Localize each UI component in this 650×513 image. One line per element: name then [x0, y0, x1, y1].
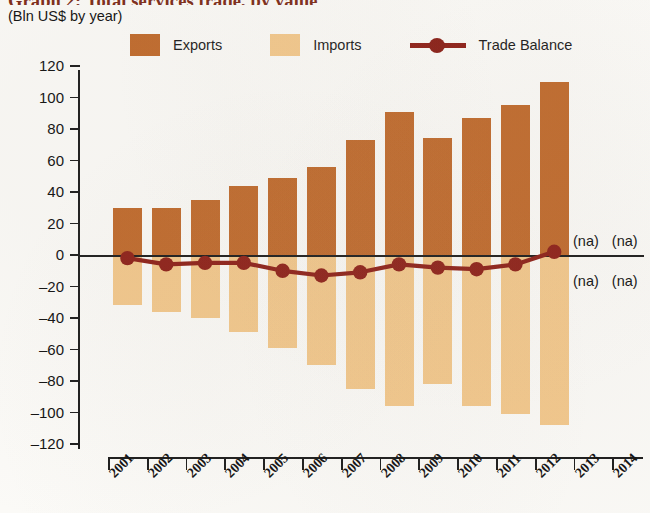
x-axis-label: 2004 [222, 450, 253, 481]
x-axis-label: 2013 [572, 450, 603, 481]
x-axis-label: 2005 [261, 450, 292, 481]
bar-imports-2001 [113, 255, 142, 305]
x-axis-label: 2009 [416, 450, 447, 481]
y-axis-label: 100 [18, 90, 64, 105]
bar-imports-2010 [462, 255, 491, 406]
x-axis-label: 2002 [145, 450, 176, 481]
y-tick [70, 349, 80, 351]
bar-exports-2012 [540, 82, 569, 255]
bar-imports-2002 [152, 255, 181, 312]
bar-imports-2005 [268, 255, 297, 348]
x-axis-label: 2014 [610, 450, 641, 481]
y-tick [70, 223, 80, 225]
bar-exports-2005 [268, 178, 297, 255]
bar-imports-2004 [229, 255, 258, 332]
bar-exports-2004 [229, 186, 258, 255]
y-tick [70, 160, 80, 162]
y-axis-label: –80 [18, 373, 64, 388]
x-axis-label: 2008 [378, 450, 409, 481]
x-axis-label: 2007 [339, 450, 370, 481]
x-axis-label: 2001 [106, 450, 137, 481]
y-tick [70, 380, 80, 382]
na-label-bottom-2013: (na) [573, 273, 599, 289]
y-axis-label: 0 [18, 247, 64, 262]
x-axis-label: 2012 [533, 450, 564, 481]
na-label-top-2013: (na) [573, 233, 599, 249]
y-tick [70, 286, 80, 288]
y-axis-label: –120 [18, 436, 64, 451]
bar-exports-2009 [423, 138, 452, 255]
bar-imports-2007 [346, 255, 375, 389]
bar-imports-2012 [540, 255, 569, 425]
bar-imports-2011 [501, 255, 530, 414]
y-axis-label: 80 [18, 121, 64, 136]
y-axis-label: –40 [18, 310, 64, 325]
bar-imports-2009 [423, 255, 452, 384]
y-tick [70, 443, 80, 445]
na-label-bottom-2014: (na) [612, 273, 638, 289]
y-tick [70, 65, 80, 67]
y-axis-label: –20 [18, 279, 64, 294]
y-tick [70, 412, 80, 414]
chart-plot-area: 120100806040200–20–40–60–80–100–120 2001… [0, 0, 650, 513]
bar-exports-2001 [113, 208, 142, 255]
bar-exports-2002 [152, 208, 181, 255]
bar-exports-2007 [346, 140, 375, 255]
bar-exports-2006 [307, 167, 336, 255]
y-axis-label: 20 [18, 216, 64, 231]
bar-exports-2008 [385, 112, 414, 255]
y-axis-label: –100 [18, 405, 64, 420]
na-label-top-2014: (na) [612, 233, 638, 249]
y-axis-label: –60 [18, 342, 64, 357]
y-axis-label: 60 [18, 153, 64, 168]
bar-imports-2006 [307, 255, 336, 365]
x-axis-label: 2010 [455, 450, 486, 481]
y-tick [70, 128, 80, 130]
y-tick [70, 317, 80, 319]
y-axis-label: 40 [18, 184, 64, 199]
bar-imports-2008 [385, 255, 414, 406]
y-tick [70, 191, 80, 193]
zero-baseline [78, 255, 644, 257]
x-axis-label: 2011 [494, 451, 525, 482]
y-axis-line [78, 70, 80, 449]
x-axis-label: 2003 [184, 450, 215, 481]
bar-imports-2003 [191, 255, 220, 318]
x-axis-label: 2006 [300, 450, 331, 481]
bar-exports-2010 [462, 118, 491, 255]
y-axis-label: 120 [18, 58, 64, 73]
bar-exports-2003 [191, 200, 220, 255]
bar-exports-2011 [501, 105, 530, 255]
y-tick [70, 97, 80, 99]
x-axis-line [108, 457, 643, 459]
